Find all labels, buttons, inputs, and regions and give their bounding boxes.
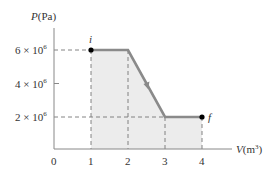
point-i-label: i bbox=[89, 33, 92, 45]
shaded-work-area bbox=[91, 50, 202, 149]
y-axis-title: P(Pa) bbox=[30, 10, 56, 23]
point-f-label: f bbox=[208, 111, 213, 123]
x-tick-label-1: 1 bbox=[88, 155, 94, 167]
x-tick-label-3: 3 bbox=[162, 155, 168, 167]
point-i-marker bbox=[88, 47, 93, 52]
x-axis-title: V(m3) bbox=[236, 143, 262, 156]
pv-diagram: i f P(Pa) V(m3) 6 × 106 4 × 106 2 × 106 … bbox=[0, 0, 277, 171]
x-tick-label-4: 4 bbox=[199, 155, 205, 167]
y-tick-label-4e6: 4 × 106 bbox=[15, 77, 47, 90]
x-tick-label-0: 0 bbox=[51, 155, 57, 167]
y-tick-label-6e6: 6 × 106 bbox=[15, 43, 47, 56]
y-tick-label-2e6: 2 × 106 bbox=[15, 110, 47, 123]
x-tick-label-2: 2 bbox=[125, 155, 131, 167]
point-f-marker bbox=[199, 114, 204, 119]
